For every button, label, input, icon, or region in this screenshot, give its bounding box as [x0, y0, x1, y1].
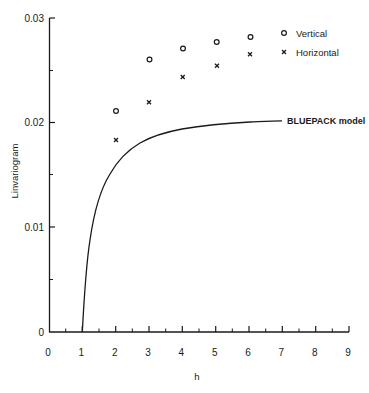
data-point-horizontal [215, 64, 219, 68]
x-axis-title: h [194, 371, 199, 382]
data-point-vertical [147, 57, 152, 62]
x-axis: 0 1 2 3 4 5 6 7 8 9 h [45, 326, 351, 382]
x-tick-label: 5 [212, 347, 218, 358]
y-tick-label: 0 [38, 327, 44, 338]
x-tick-label: 1 [79, 347, 85, 358]
variogram-chart: 0 0.01 0.02 0.03 Linvariogram [0, 0, 369, 393]
legend-label-vertical: Vertical [296, 28, 327, 39]
x-tick-label: 4 [179, 347, 185, 358]
x-tick-label: 0 [45, 347, 51, 358]
legend-label-horizontal: Horizontal [296, 47, 339, 58]
legend-cross-icon [282, 50, 286, 54]
y-axis: 0 0.01 0.02 0.03 Linvariogram [9, 13, 55, 338]
legend-circle-icon [282, 31, 287, 36]
data-point-vertical [181, 46, 186, 51]
data-point-vertical [114, 109, 119, 114]
x-tick-label: 7 [279, 347, 285, 358]
x-tick-label: 3 [145, 347, 151, 358]
x-tick-label: 2 [112, 347, 118, 358]
x-tick-label: 9 [345, 347, 351, 358]
x-major-ticks [82, 326, 349, 332]
data-point-horizontal [248, 52, 252, 56]
bluepack-model-label: BLUEPACK model [287, 116, 365, 126]
series-vertical [114, 35, 253, 114]
y-tick-label: 0.03 [25, 13, 45, 24]
y-tick-label: 0.02 [25, 117, 45, 128]
y-axis-title: Linvariogram [9, 143, 20, 198]
data-point-horizontal [114, 138, 118, 142]
data-point-vertical [248, 35, 253, 40]
x-tick-label: 8 [312, 347, 318, 358]
legend: Vertical Horizontal [282, 28, 339, 58]
x-tick-label: 6 [245, 347, 251, 358]
bluepack-model-curve [82, 121, 282, 332]
data-point-horizontal [181, 75, 185, 79]
data-point-vertical [214, 40, 219, 45]
data-point-horizontal [147, 100, 151, 104]
y-tick-label: 0.01 [25, 222, 45, 233]
